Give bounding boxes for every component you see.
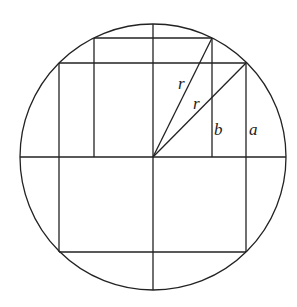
label-r-upper: r <box>178 74 185 93</box>
geometry-diagram: r r b a <box>0 0 297 307</box>
radius-upper <box>153 38 212 157</box>
label-a: a <box>249 120 258 139</box>
label-b: b <box>214 120 223 139</box>
label-r-lower: r <box>193 94 200 113</box>
